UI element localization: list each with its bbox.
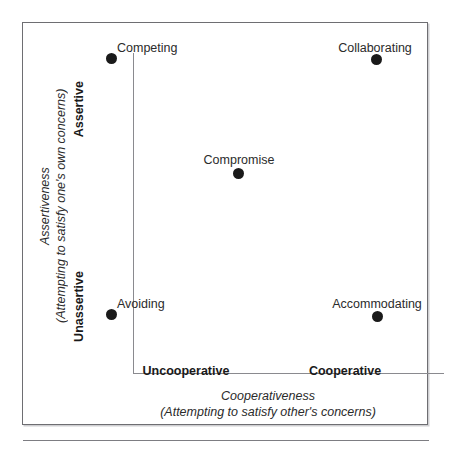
x-axis-title-main: Cooperativeness (160, 388, 376, 404)
data-point-compromise (233, 168, 244, 179)
data-label-collaborating: Collaborating (338, 42, 412, 55)
y-axis-title-sub: (Attempting to satisfy one's own concern… (53, 61, 69, 351)
data-point-collaborating (371, 54, 382, 65)
data-label-competing: Competing (117, 42, 177, 55)
figure-frame: Competing Collaborating Compromise Avoid… (22, 22, 428, 425)
x-axis-label-uncooperative: Uncooperative (143, 364, 230, 378)
y-axis-title: Assertiveness (Attempting to satisfy one… (37, 61, 69, 351)
footer-rule (23, 440, 429, 441)
data-label-avoiding: Avoiding (117, 298, 165, 311)
y-axis-title-main: Assertiveness (37, 61, 53, 351)
data-point-competing (106, 53, 117, 64)
y-axis-label-assertive: Assertive (72, 81, 86, 137)
y-axis-line (133, 53, 134, 374)
x-axis-title-sub: (Attempting to satisfy other's concerns) (160, 404, 376, 420)
x-axis-label-cooperative: Cooperative (309, 364, 381, 378)
data-point-accommodating (372, 311, 383, 322)
x-axis-title: Cooperativeness (Attempting to satisfy o… (160, 388, 376, 420)
y-axis-label-unassertive: Unassertive (72, 271, 86, 342)
data-label-accommodating: Accommodating (332, 298, 422, 311)
data-point-avoiding (106, 309, 117, 320)
conflict-mode-figure: Competing Collaborating Compromise Avoid… (0, 0, 452, 451)
data-label-compromise: Compromise (204, 154, 275, 167)
